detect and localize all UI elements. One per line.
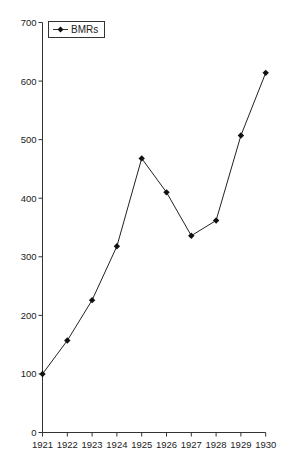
data-point-diamond-icon: [238, 132, 244, 138]
x-tick-label: 1930: [255, 439, 276, 450]
x-axis: 1921192219231924192519261927192819291930: [32, 433, 276, 450]
x-tick-label: 1925: [131, 439, 152, 450]
legend: BMRs: [49, 22, 105, 38]
data-point-diamond-icon: [263, 70, 269, 76]
y-tick-label: 700: [21, 17, 37, 28]
y-tick-label: 300: [21, 251, 37, 262]
series-bmrs: [39, 70, 269, 377]
y-tick-label: 200: [21, 310, 37, 321]
y-axis: 0100200300400500600700: [21, 17, 43, 438]
x-tick-label: 1927: [181, 439, 202, 450]
x-tick-label: 1923: [82, 439, 103, 450]
data-point-diamond-icon: [89, 297, 95, 303]
x-tick-label: 1929: [230, 439, 251, 450]
x-tick-label: 1928: [206, 439, 227, 450]
data-point-diamond-icon: [213, 217, 219, 223]
y-tick-label: 100: [21, 368, 37, 379]
x-tick-label: 1926: [156, 439, 177, 450]
x-tick-label: 1921: [32, 439, 53, 450]
series-line: [43, 73, 266, 374]
x-tick-label: 1924: [106, 439, 127, 450]
y-tick-label: 0: [31, 427, 36, 438]
y-tick-label: 500: [21, 134, 37, 145]
data-point-diamond-icon: [188, 233, 194, 239]
line-chart: 0100200300400500600700 19211922192319241…: [0, 0, 293, 460]
y-tick-label: 400: [21, 193, 37, 204]
x-tick-label: 1922: [57, 439, 78, 450]
legend-label: BMRs: [71, 24, 98, 35]
data-point-diamond-icon: [114, 243, 120, 249]
y-tick-label: 600: [21, 76, 37, 87]
